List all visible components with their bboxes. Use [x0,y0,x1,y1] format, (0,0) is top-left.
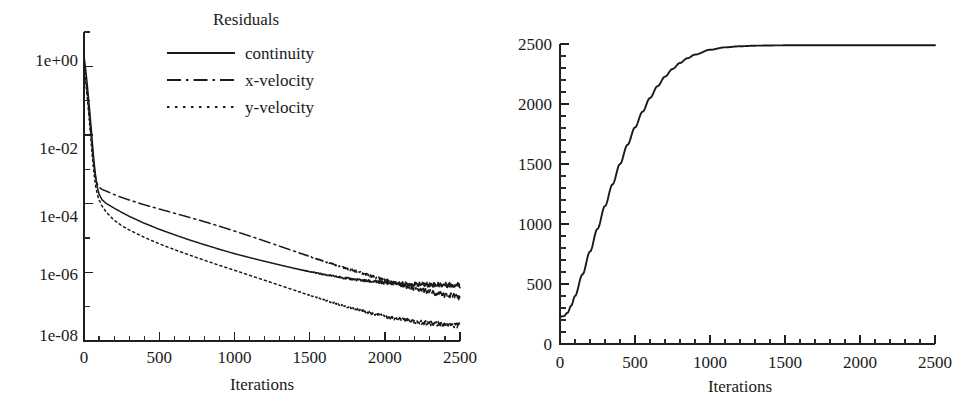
convergence-axes [560,44,935,344]
xtick-label-1500: 1500 [768,353,802,372]
xtick-label-1500: 1500 [293,348,327,367]
xtick-label-2000: 2000 [843,353,877,372]
residuals-chart-svg: Residuals continuity x-velocity y-veloci… [0,0,490,411]
ytick-label-1500: 1500 [518,155,552,174]
residuals-legend: Residuals continuity x-velocity y-veloci… [167,10,314,117]
convergence-ticks [560,44,935,344]
ytick-label-1e-04: 1e-04 [39,207,78,226]
ytick-label-1e-08: 1e-08 [39,326,78,345]
xtick-label-1000: 1000 [693,353,727,372]
ytick-label-2500: 2500 [518,35,552,54]
xtick-label-0: 0 [556,353,565,372]
axis-lines [560,44,935,344]
xtick-label-2500: 2500 [443,348,477,367]
residuals-ytick-labels: 1e+00 1e-02 1e-04 1e-06 1e-08 [35,51,78,345]
series-line-continuity [84,56,460,288]
xtick-label-500: 500 [622,353,648,372]
ytick-label-1000: 1000 [518,215,552,234]
ytick-label-1e-02: 1e-02 [39,139,78,158]
residuals-panel: Residuals continuity x-velocity y-veloci… [0,0,490,411]
convergence-xtick-labels: 05001000150020002500 [556,353,952,372]
convergence-panel: 05001000150020002500 0500100015002000250… [490,0,976,411]
convergence-xaxis-title: Iterations [708,377,772,396]
ytick-label-500: 500 [527,275,553,294]
ytick-label-0: 0 [544,335,553,354]
xtick-label-0: 0 [80,348,89,367]
xtick-label-2000: 2000 [368,348,402,367]
legend-label-x-velocity: x-velocity [245,71,314,90]
convergence-series-group [560,45,935,316]
ytick-label-2000: 2000 [518,95,552,114]
ytick-label-1e00: 1e+00 [35,51,78,70]
ytick-label-1e-06: 1e-06 [39,265,78,284]
convergence-chart-svg: 05001000150020002500 0500100015002000250… [490,0,976,411]
legend-label-y-velocity: y-velocity [245,98,314,117]
legend-title: Residuals [213,10,279,29]
figure-root: Residuals continuity x-velocity y-veloci… [0,0,976,411]
legend-label-continuity: continuity [245,44,314,63]
residuals-xtick-labels: 05001000150020002500 [80,348,477,367]
residuals-series-group [84,56,460,328]
residuals-xaxis-title: Iterations [230,375,294,394]
convergence-ytick-labels: 05001000150020002500 [518,35,552,354]
xtick-label-2500: 2500 [918,353,952,372]
xtick-label-1000: 1000 [217,348,251,367]
xtick-label-500: 500 [146,348,172,367]
series-line-value [560,45,935,316]
